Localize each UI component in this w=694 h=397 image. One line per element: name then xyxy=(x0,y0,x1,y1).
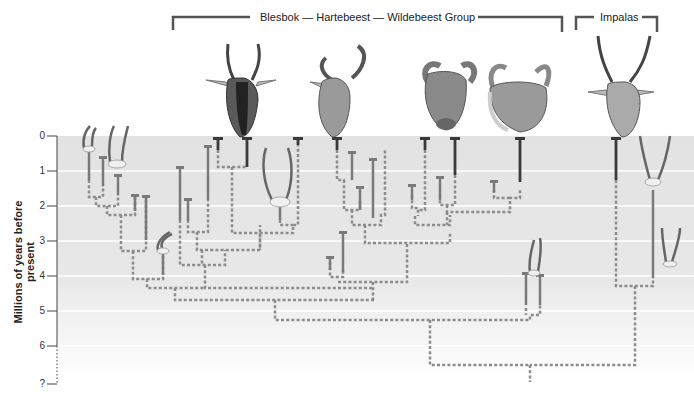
tick-6: 6 xyxy=(31,340,45,351)
tick-unknown: ? xyxy=(31,378,45,389)
tree-canvas xyxy=(0,0,694,397)
group-label-blesbok-hartebeest-wildebeest: Blesbok — Hartebeest — Wildebeest Group xyxy=(257,11,478,23)
blesbok-head-illustration xyxy=(206,44,276,137)
hartebeest-head-illustration xyxy=(310,46,364,137)
tick-1: 1 xyxy=(31,165,45,176)
y-axis xyxy=(47,136,57,384)
tick-0: 0 xyxy=(31,130,45,141)
group-label-impalas: Impalas xyxy=(597,11,642,23)
time-background xyxy=(57,136,694,376)
blue-wildebeest-head-illustration xyxy=(490,66,549,132)
tick-5: 5 xyxy=(31,305,45,316)
black-wildebeest-head-illustration xyxy=(425,64,474,130)
impala-head-illustration xyxy=(588,36,654,137)
tick-2: 2 xyxy=(31,200,45,211)
phylogeny-diagram: Blesbok — Hartebeest — Wildebeest Group … xyxy=(0,0,694,397)
tick-3: 3 xyxy=(31,235,45,246)
tick-4: 4 xyxy=(31,270,45,281)
